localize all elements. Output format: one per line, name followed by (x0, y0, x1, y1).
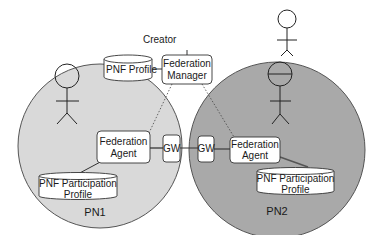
federation-manager-line2: Manager (167, 70, 207, 81)
creator-label: Creator (143, 34, 177, 45)
pn2-label: PN2 (266, 205, 287, 217)
pn1-profile-line1: PNF Participation (39, 178, 117, 189)
pnf-federation-diagram: Creator PNF Profile Federation Manager (0, 0, 374, 235)
pn2-gateway-label: GW (197, 143, 215, 154)
pn1-participation-profile-database: PNF Participation Profile (39, 173, 117, 201)
pn2-profile-line2: Profile (281, 184, 310, 195)
pn2-gateway-box: GW (197, 136, 215, 162)
pnf-profile-database: PNF Profile (104, 55, 158, 81)
pn2-federation-agent-box: Federation Agent (230, 137, 280, 163)
pn2-agent-line1: Federation (231, 139, 279, 150)
pn1-agent-line1: Federation (100, 136, 148, 147)
pn2-profile-line1: PNF Participation (257, 173, 335, 184)
pnf-profile-label: PNF Profile (106, 64, 158, 75)
creator-actor-icon (277, 10, 297, 56)
federation-manager-box: Federation Manager (162, 55, 212, 84)
pn1-profile-line2: Profile (64, 189, 93, 200)
pn1-agent-line2: Agent (110, 148, 136, 159)
pn1-label: PN1 (84, 206, 105, 218)
federation-manager-line1: Federation (163, 58, 211, 69)
pn1-gateway-label: GW (163, 143, 181, 154)
pn1-federation-agent-box: Federation Agent (97, 131, 150, 163)
pn2-agent-line2: Agent (242, 150, 268, 161)
pn2-participation-profile-database: PNF Participation Profile (257, 168, 335, 196)
pn1-gateway-box: GW (163, 135, 181, 162)
